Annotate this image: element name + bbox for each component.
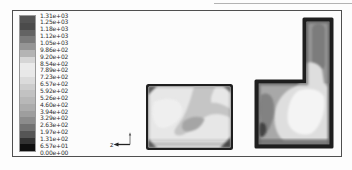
colorbar-band: [20, 16, 35, 23]
colorbar-band: [20, 111, 35, 118]
y-axis-arrowhead-icon: [129, 132, 131, 135]
figure-canvas: 1.31e+031.25e+031.18e+031.12e+031.05e+03…: [0, 0, 352, 170]
colorbar-band: [20, 77, 35, 84]
legend-tick-label: 0.00e+00: [40, 149, 68, 156]
colorbar-band: [20, 97, 35, 104]
z-axis-arrowhead-icon: [114, 143, 119, 147]
colorbar-band: [20, 70, 35, 77]
bottom-wall-dark-band: [259, 139, 330, 143]
colorbar-band: [20, 84, 35, 91]
colorbar: [19, 15, 36, 152]
colorbar-band: [20, 50, 35, 57]
colorbar-band: [20, 63, 35, 70]
legend-ticks: 1.31e+031.25e+031.18e+031.12e+031.05e+03…: [40, 15, 90, 160]
colorbar-band: [20, 138, 35, 145]
colorbar-band: [20, 131, 35, 138]
colorbar-band: [20, 57, 35, 64]
bottom-wall-dark-line: [148, 143, 231, 145]
colorbar-band: [20, 23, 35, 30]
contour-plot-rectangular: [146, 84, 233, 150]
axis-triad: z: [109, 131, 133, 151]
colorbar-band: [20, 36, 35, 43]
colorbar-band: [20, 144, 35, 151]
colorbar-band: [20, 30, 35, 37]
colorbar-band: [20, 104, 35, 111]
colorbar-band: [20, 124, 35, 131]
colorbar-band: [20, 43, 35, 50]
axis-z-label: z: [110, 141, 114, 149]
contour-plot-l-shaped: [254, 17, 334, 149]
colorbar-band: [20, 117, 35, 124]
colorbar-band: [20, 90, 35, 97]
scan-artifact-line: [214, 3, 352, 4]
bottom-wall-band: [148, 140, 231, 143]
